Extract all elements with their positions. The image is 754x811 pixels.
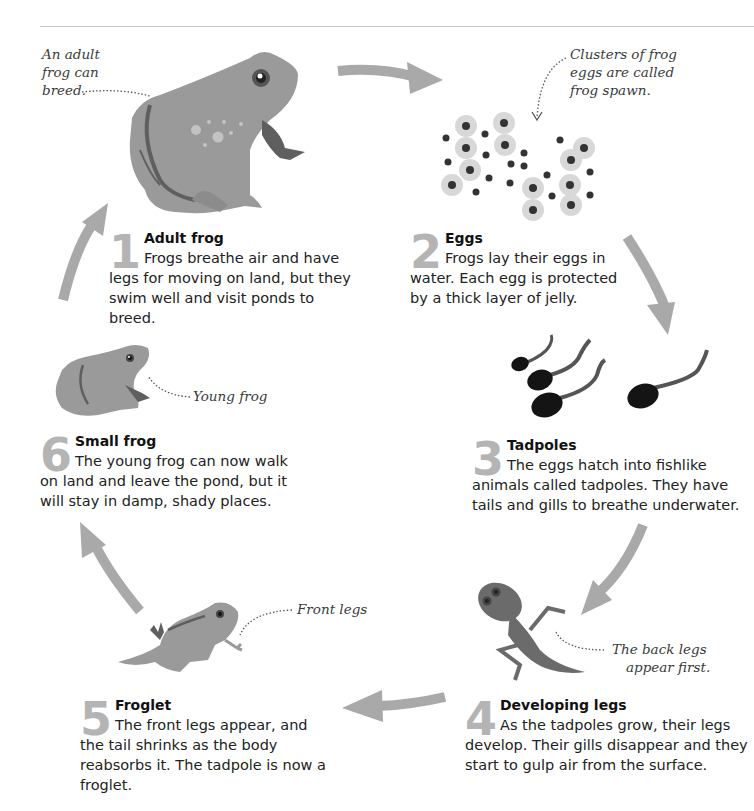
tadpole-with-legs-icon [471, 575, 585, 680]
stage-number: 4 [465, 697, 495, 741]
stage-number: 5 [80, 697, 110, 741]
stage-description: As the tadpoles grow, their legs develop… [465, 715, 750, 775]
annotation-adult-frog: An adult frog can breed. [42, 45, 100, 99]
stage-number: 1 [109, 230, 139, 274]
stage-2-eggs: 2 Eggs Frogs lay their eggs in water. Ea… [410, 230, 620, 308]
stage-title: Eggs [445, 230, 620, 247]
arrow-2-to-3 [627, 237, 675, 335]
stage-title: Tadpoles [507, 437, 747, 454]
annotation-line: An adult [42, 45, 100, 63]
stage-4-developing-legs: 4 Developing legs As the tadpoles grow, … [465, 697, 750, 775]
life-cycle-artwork [0, 0, 754, 811]
stage-description: Frogs breathe air and have legs for movi… [109, 248, 354, 328]
annotation-line: eggs are called [570, 63, 677, 81]
arrow-1-to-2 [338, 62, 443, 94]
eggs-pointer-head-icon [532, 112, 542, 120]
back-legs-annotation-pointer [556, 632, 604, 650]
stage-5-froglet: 5 Froglet The front legs appear, and the… [80, 697, 330, 795]
stage-number: 2 [410, 230, 440, 274]
front-legs-annotation-pointer [240, 610, 292, 635]
stage-6-small-frog: 6 Small frog The young frog can now walk… [40, 433, 290, 511]
stage-1-adult-frog: 1 Adult frog Frogs breathe air and have … [109, 230, 354, 328]
frog-spawn-icon [441, 112, 595, 221]
arrow-4-to-5 [342, 690, 445, 722]
annotation-line: breed. [42, 81, 100, 99]
stage-3-tadpoles: 3 Tadpoles The eggs hatch into fishlike … [472, 437, 747, 515]
arrow-6-to-1 [63, 203, 108, 300]
annotation-line: frog can [42, 63, 100, 81]
annotation-back-legs: The back legs appear first. [612, 640, 710, 676]
stage-number: 6 [40, 433, 70, 477]
arrow-3-to-4 [581, 525, 643, 615]
stage-title: Small frog [75, 433, 290, 450]
arrow-5-to-6 [80, 522, 140, 611]
stage-title: Developing legs [500, 697, 750, 714]
young-frog-icon [56, 345, 150, 416]
young-frog-annotation-pointer [148, 376, 190, 397]
annotation-line: Clusters of frog [570, 45, 677, 63]
tadpoles-icon [509, 335, 707, 422]
stage-description: The young frog can now walk on land and … [40, 451, 290, 511]
annotation-line: appear first. [612, 658, 710, 676]
annotation-front-legs: Front legs [297, 600, 367, 618]
eggs-annotation-pointer [537, 58, 566, 118]
stage-title: Adult frog [144, 230, 354, 247]
stage-title: Froglet [115, 697, 330, 714]
stage-description: The front legs appear, and the tail shri… [80, 715, 330, 795]
stage-number: 3 [472, 437, 502, 481]
annotation-line: The back legs [612, 640, 710, 658]
annotation-line: frog spawn. [570, 81, 677, 99]
adult-frog-icon [130, 52, 305, 213]
annotation-young-frog: Young frog [193, 387, 267, 405]
stage-description: The eggs hatch into fishlike animals cal… [472, 455, 747, 515]
stage-description: Frogs lay their eggs in water. Each egg … [410, 248, 620, 308]
annotation-frog-spawn: Clusters of frog eggs are called frog sp… [570, 45, 677, 99]
